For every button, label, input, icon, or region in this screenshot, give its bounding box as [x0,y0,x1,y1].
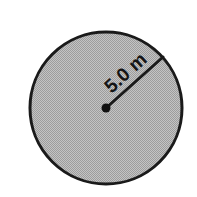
center-point-dot [102,104,111,113]
circle-with-radius-diagram: 5.0 m [0,0,197,197]
